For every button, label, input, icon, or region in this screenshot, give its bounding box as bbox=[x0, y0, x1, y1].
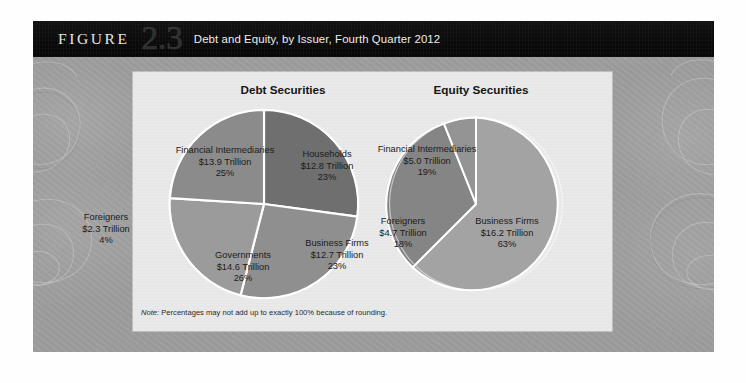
label-debt-households: Households $12.8 Trillion 23% bbox=[278, 149, 376, 184]
figure-header-band: FIGURE 2.3 Debt and Equity, by Issuer, F… bbox=[33, 21, 714, 57]
label-percent: 23% bbox=[278, 172, 376, 184]
label-name: Foreigners bbox=[60, 212, 152, 224]
figure-note: Note: Percentages may not add up to exac… bbox=[141, 308, 387, 317]
label-amount: $4.7 Trillion bbox=[361, 228, 445, 240]
label-amount: $2.3 Trillion bbox=[60, 224, 152, 236]
chart-title-equity-securities: Equity Securities bbox=[401, 83, 561, 96]
pie-chart-equity-securities bbox=[385, 113, 567, 295]
label-name: Governments bbox=[187, 250, 299, 262]
label-amount: $12.8 Trillion bbox=[278, 161, 376, 173]
label-amount: $12.7 Trillion bbox=[285, 250, 389, 262]
label-amount: $16.2 Trillion bbox=[455, 228, 559, 240]
figure-label: FIGURE bbox=[58, 30, 130, 48]
chart-title-debt-securities: Debt Securities bbox=[203, 83, 363, 96]
label-amount: $14.6 Trillion bbox=[187, 262, 299, 274]
label-name: Financial Intermediaries bbox=[169, 145, 281, 157]
label-equity-foreigners: Foreigners $4.7 Trillion 18% bbox=[361, 216, 445, 251]
figure-number: 2.3 bbox=[142, 22, 183, 55]
label-amount: $13.9 Trillion bbox=[169, 157, 281, 169]
note-prefix: Note: bbox=[141, 308, 159, 317]
figure-root: FIGURE 2.3 Debt and Equity, by Issuer, F… bbox=[0, 0, 746, 383]
label-percent: 19% bbox=[374, 167, 480, 179]
label-percent: 18% bbox=[361, 239, 445, 251]
figure-panel: FIGURE 2.3 Debt and Equity, by Issuer, F… bbox=[33, 21, 714, 352]
note-text: Percentages may not add up to exactly 10… bbox=[161, 308, 387, 317]
label-debt-governments: Governments $14.6 Trillion 26% bbox=[187, 250, 299, 285]
label-debt-financial-intermediaries: Financial Intermediaries $13.9 Trillion … bbox=[169, 145, 281, 180]
label-percent: 4% bbox=[60, 235, 152, 247]
chart-panel: Debt Securities Equity Securities bbox=[133, 72, 612, 331]
label-debt-foreigners: Foreigners $2.3 Trillion 4% bbox=[60, 212, 152, 247]
label-percent: 25% bbox=[169, 168, 281, 180]
label-name: Households bbox=[278, 149, 376, 161]
label-name: Foreigners bbox=[361, 216, 445, 228]
label-equity-business-firms: Business Firms $16.2 Trillion 63% bbox=[455, 216, 559, 251]
label-percent: 26% bbox=[187, 273, 299, 285]
figure-title: Debt and Equity, by Issuer, Fourth Quart… bbox=[194, 33, 440, 45]
label-percent: 63% bbox=[455, 239, 559, 251]
label-equity-financial-intermediaries: Financial Intermediaries $5.0 Trillion 1… bbox=[374, 144, 480, 179]
label-amount: $5.0 Trillion bbox=[374, 156, 480, 168]
label-percent: 23% bbox=[285, 261, 389, 273]
label-name: Business Firms bbox=[455, 216, 559, 228]
label-name: Financial Intermediaries bbox=[374, 144, 480, 156]
